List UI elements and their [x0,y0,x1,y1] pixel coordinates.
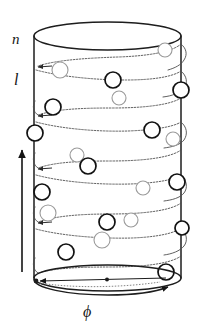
bead-20 [58,244,74,260]
radius-line [40,278,166,281]
bead-2 [52,62,68,78]
azimuth-radius-indicator [34,278,166,287]
bead-12 [169,174,185,190]
bead-17 [175,221,189,235]
bead-14 [34,184,50,200]
bead-13 [136,181,150,195]
bead-1 [158,43,172,57]
bead-5 [112,91,126,105]
base-origin-dot [34,279,39,284]
bead-3 [105,72,121,88]
helix-turn-6 [36,175,181,184]
bead-15 [40,205,56,221]
helix-index-label: l [14,72,18,88]
axial-index-label: n [12,32,20,47]
bead-18 [124,213,138,227]
base-inner-dotted-arc [40,282,160,287]
bead-16 [99,214,115,230]
azimuthal-angle-label: ϕ [83,304,91,320]
cylinder-helix-figure [0,0,199,332]
bead-6 [45,99,61,115]
bead-group [27,43,189,280]
bead-8 [144,122,160,138]
bead-4 [173,82,189,98]
bead-9 [166,132,180,146]
base-center-dot [105,278,109,282]
bead-19 [94,232,110,248]
bead-11 [80,158,96,174]
helix-turn-5 [38,150,181,168]
bead-7 [27,125,43,141]
